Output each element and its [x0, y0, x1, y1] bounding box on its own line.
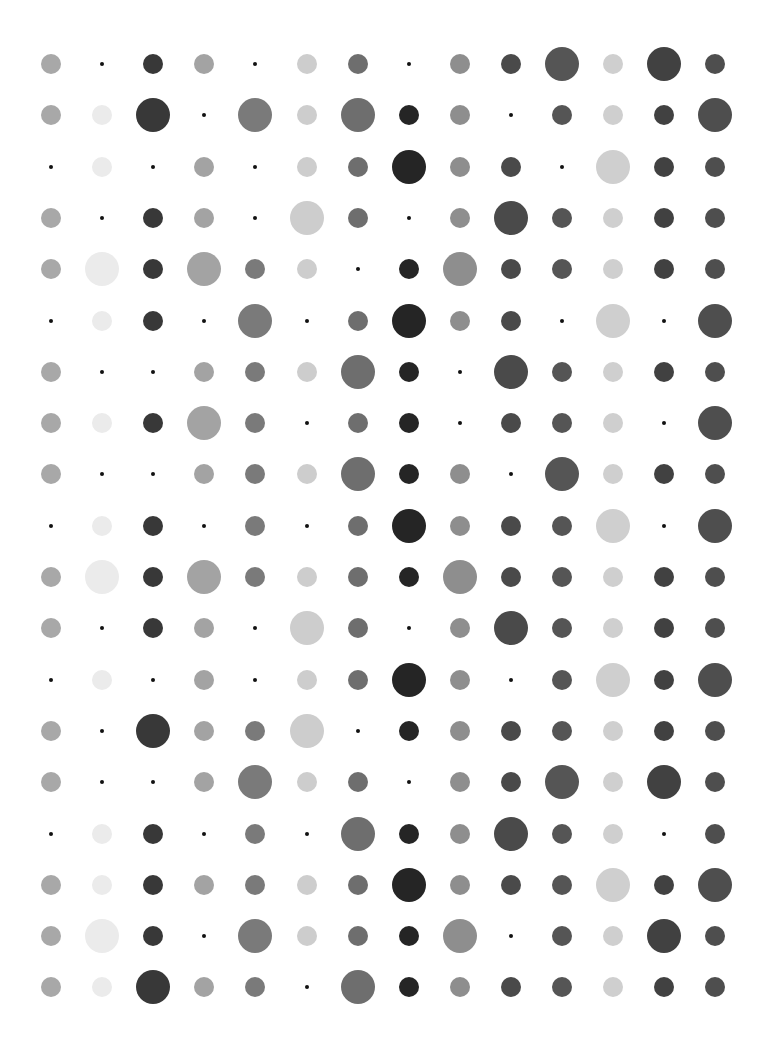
- dot-r17-c10: [501, 875, 521, 895]
- dot-r12-c3: [143, 618, 163, 638]
- dot-r1-c7: [348, 54, 368, 74]
- dot-r4-c8: [407, 216, 411, 220]
- dot-r17-c1: [41, 875, 61, 895]
- dot-r2-c9: [450, 105, 470, 125]
- dot-r10-c14: [698, 509, 732, 543]
- dot-r11-c8: [399, 567, 419, 587]
- dot-r12-c10: [494, 611, 528, 645]
- dot-r10-c8: [392, 509, 426, 543]
- dot-r9-c6: [297, 464, 317, 484]
- dot-r7-c9: [458, 370, 462, 374]
- dot-r15-c3: [151, 780, 155, 784]
- dot-r3-c1: [49, 165, 53, 169]
- dot-r16-c13: [662, 832, 666, 836]
- dot-r14-c3: [136, 714, 170, 748]
- dot-r5-c9: [443, 252, 477, 286]
- dot-r9-c9: [450, 464, 470, 484]
- dot-r2-c14: [698, 98, 732, 132]
- dot-r1-c12: [603, 54, 623, 74]
- dot-r14-c6: [290, 714, 324, 748]
- dot-r17-c5: [245, 875, 265, 895]
- dot-r5-c12: [603, 259, 623, 279]
- dot-r13-c4: [194, 670, 214, 690]
- dot-r8-c4: [187, 406, 221, 440]
- dot-r6-c8: [392, 304, 426, 338]
- dot-r4-c11: [552, 208, 572, 228]
- dot-r4-c2: [100, 216, 104, 220]
- dot-r9-c13: [654, 464, 674, 484]
- dot-r4-c1: [41, 208, 61, 228]
- dot-r6-c9: [450, 311, 470, 331]
- dot-r16-c4: [202, 832, 206, 836]
- dot-r17-c14: [698, 868, 732, 902]
- dot-r12-c13: [654, 618, 674, 638]
- dot-r11-c11: [552, 567, 572, 587]
- dot-r11-c1: [41, 567, 61, 587]
- dot-r5-c6: [297, 259, 317, 279]
- dot-r19-c7: [341, 970, 375, 1004]
- dot-r5-c13: [654, 259, 674, 279]
- dot-r10-c2: [92, 516, 112, 536]
- dot-r9-c8: [399, 464, 419, 484]
- dot-r3-c5: [253, 165, 257, 169]
- dot-r8-c1: [41, 413, 61, 433]
- dot-r16-c3: [143, 824, 163, 844]
- dot-r10-c4: [202, 524, 206, 528]
- dot-r4-c10: [494, 201, 528, 235]
- dot-r16-c11: [552, 824, 572, 844]
- dot-r1-c1: [41, 54, 61, 74]
- dot-r14-c12: [603, 721, 623, 741]
- dot-r2-c2: [92, 105, 112, 125]
- dot-r16-c7: [341, 817, 375, 851]
- dot-r4-c7: [348, 208, 368, 228]
- dot-r18-c5: [238, 919, 272, 953]
- dot-r15-c4: [194, 772, 214, 792]
- dot-r19-c2: [92, 977, 112, 997]
- dot-r6-c7: [348, 311, 368, 331]
- dot-r13-c8: [392, 663, 426, 697]
- dot-r15-c5: [238, 765, 272, 799]
- dot-r18-c4: [202, 934, 206, 938]
- dot-r2-c10: [509, 113, 513, 117]
- dot-r2-c4: [202, 113, 206, 117]
- dot-r18-c3: [143, 926, 163, 946]
- dot-r2-c1: [41, 105, 61, 125]
- dot-r9-c14: [705, 464, 725, 484]
- dot-r3-c13: [654, 157, 674, 177]
- dot-r18-c10: [509, 934, 513, 938]
- dot-r17-c8: [392, 868, 426, 902]
- dot-r17-c3: [143, 875, 163, 895]
- dot-r17-c9: [450, 875, 470, 895]
- dot-r13-c14: [698, 663, 732, 697]
- dot-r14-c5: [245, 721, 265, 741]
- dot-r17-c13: [654, 875, 674, 895]
- dot-r8-c13: [662, 421, 666, 425]
- dot-r2-c12: [603, 105, 623, 125]
- dot-r12-c12: [603, 618, 623, 638]
- dot-r17-c12: [596, 868, 630, 902]
- dot-r15-c2: [100, 780, 104, 784]
- dot-r7-c3: [151, 370, 155, 374]
- dot-r17-c4: [194, 875, 214, 895]
- dot-r5-c5: [245, 259, 265, 279]
- dot-r5-c10: [501, 259, 521, 279]
- dot-r2-c5: [238, 98, 272, 132]
- dot-r16-c14: [705, 824, 725, 844]
- dot-r8-c5: [245, 413, 265, 433]
- dot-r11-c2: [85, 560, 119, 594]
- dot-r14-c11: [552, 721, 572, 741]
- dot-r4-c9: [450, 208, 470, 228]
- dot-r10-c12: [596, 509, 630, 543]
- dot-r6-c12: [596, 304, 630, 338]
- dot-r9-c5: [245, 464, 265, 484]
- dot-r1-c3: [143, 54, 163, 74]
- dot-r10-c6: [305, 524, 309, 528]
- dot-r10-c9: [450, 516, 470, 536]
- dot-r18-c2: [85, 919, 119, 953]
- dot-r11-c10: [501, 567, 521, 587]
- dot-r9-c2: [100, 472, 104, 476]
- dot-r3-c12: [596, 150, 630, 184]
- dot-r16-c6: [305, 832, 309, 836]
- dot-r19-c4: [194, 977, 214, 997]
- dot-r12-c1: [41, 618, 61, 638]
